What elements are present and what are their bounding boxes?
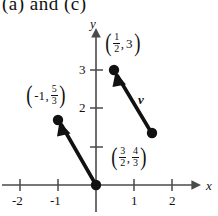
paren-close: ) (59, 84, 65, 106)
vector-label-v: v (138, 93, 144, 106)
x-tick-label--1: -1 (50, 194, 61, 207)
y-axis-label: y (90, 17, 96, 30)
fraction-numerator: 1 (113, 32, 120, 42)
fraction-numerator: 5 (51, 84, 58, 94)
y-tick-label-3: 3 (79, 63, 86, 76)
point-origin (91, 180, 101, 190)
point-half-3 (109, 65, 119, 75)
fraction-four-thirds: 4 3 (132, 146, 139, 167)
label-comma: , (46, 89, 49, 102)
vector-figure: (a) and (c) x y -2 (0, 0, 218, 216)
point-label-half-3: ( 1 2 , 3 ) (104, 32, 142, 54)
fraction-denominator: 2 (119, 157, 126, 168)
fraction-one-half: 1 2 (113, 32, 120, 53)
x-axis-label: x (206, 179, 212, 192)
x-tick-label-2: 2 (169, 194, 176, 207)
paren-close: ) (141, 146, 147, 168)
point-3over2-4over3 (147, 128, 157, 138)
point-neg1-5over3 (53, 115, 63, 125)
paren-open: ( (105, 32, 111, 54)
point-label-neg1-5over3: ( -1 , 5 3 ) (25, 84, 67, 106)
paren-open: ( (111, 146, 117, 168)
x-tick-label--2: -2 (12, 194, 23, 207)
fraction-numerator: 4 (132, 146, 139, 156)
label-y-value: 3 (126, 37, 133, 50)
label-x-value: -1 (34, 89, 45, 102)
y-tick-label-2: 2 (79, 101, 86, 114)
x-tick-label-1: 1 (131, 194, 138, 207)
fraction-denominator: 3 (51, 95, 58, 106)
fraction-denominator: 2 (113, 43, 120, 54)
paren-close: ) (134, 32, 140, 54)
label-comma: , (127, 151, 130, 164)
fraction-denominator: 3 (132, 157, 139, 168)
fraction-three-halves: 3 2 (119, 146, 126, 167)
point-label-3over2-4over3: ( 3 2 , 4 3 ) (110, 146, 148, 168)
fraction-numerator: 3 (119, 146, 126, 156)
paren-open: ( (26, 84, 32, 106)
label-comma: , (121, 37, 124, 50)
fraction-five-thirds: 5 3 (51, 84, 58, 105)
